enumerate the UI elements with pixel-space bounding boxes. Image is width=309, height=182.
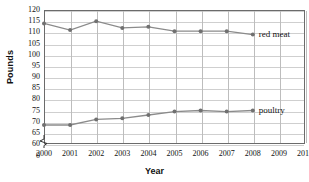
data-point [120, 116, 124, 120]
data-point [199, 29, 203, 33]
axis-break-icon [38, 134, 50, 148]
x-axis-title: Year [0, 166, 309, 176]
data-point [94, 117, 98, 121]
data-point [68, 123, 72, 127]
data-point [94, 19, 98, 23]
data-point [251, 33, 255, 37]
data-point [251, 109, 255, 113]
data-point [173, 29, 177, 33]
data-point [225, 29, 229, 33]
series-label-red-meat: red meat [259, 30, 290, 39]
data-point [146, 25, 150, 29]
data-point [146, 113, 150, 117]
data-point [120, 26, 124, 30]
data-point [173, 110, 177, 114]
series-line-poultry [44, 111, 253, 126]
data-point [42, 123, 46, 127]
data-point [199, 109, 203, 113]
data-point [225, 110, 229, 114]
line-chart: 06065707580859095100105110115120 2000200… [0, 0, 309, 182]
series-layer [0, 0, 309, 182]
series-label-poultry: poultry [259, 106, 285, 115]
data-point [68, 28, 72, 32]
data-point [42, 21, 46, 25]
y-axis-title: Pounds [5, 37, 15, 97]
